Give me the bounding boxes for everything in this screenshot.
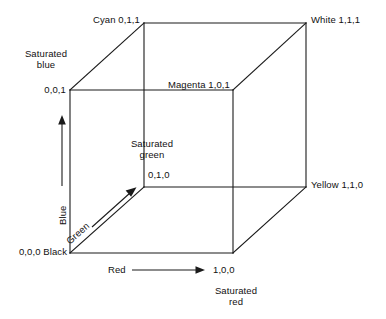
axis-label-red: Red: [108, 264, 148, 275]
annotation-saturated-green-line1: Saturated: [113, 138, 191, 149]
annotation-saturated-blue-line1: Saturated: [8, 48, 84, 59]
vertex-label-black: 0,0,0 Black: [0, 246, 67, 257]
cube-edge-depth-bottom-right: [233, 187, 306, 253]
vertex-label-yellow: Yellow 1,1,0: [311, 179, 386, 190]
annotation-saturated-blue-line2: blue: [8, 59, 84, 70]
rgb-color-cube-diagram: Cyan 0,1,1 White 1,1,1 Saturated blue 0,…: [0, 0, 386, 319]
annotation-saturated-red-line2: red: [198, 296, 274, 307]
cube-edge-depth-bottom-left: [70, 187, 144, 253]
vertex-label-cyan: Cyan 0,1,1: [58, 14, 140, 25]
vertex-label-white: White 1,1,1: [311, 14, 386, 25]
blue-axis-arrow: [58, 115, 66, 186]
vertex-label-saturated-green: 0,1,0: [148, 169, 200, 180]
vertex-label-magenta: Magenta 1,0,1: [145, 79, 230, 90]
axis-label-blue: Blue: [57, 177, 68, 225]
annotation-saturated-green-line2: green: [113, 149, 191, 160]
vertex-label-saturated-red: 1,0,0: [213, 264, 263, 275]
annotation-saturated-red-line1: Saturated: [198, 285, 274, 296]
cube-edge-depth-top-right: [233, 23, 306, 90]
vertex-label-saturated-blue: 0,0,1: [14, 84, 66, 95]
